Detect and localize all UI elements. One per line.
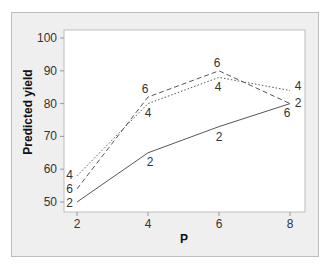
plot-area (64, 30, 305, 212)
point-label-4: 4 (145, 106, 152, 120)
point-label-6: 6 (214, 56, 221, 70)
x-axis-title: P (180, 232, 188, 246)
point-label-2: 2 (147, 155, 154, 169)
x-tick-label: 6 (216, 217, 223, 231)
point-label-6: 6 (284, 106, 291, 120)
y-axis: 50 60 70 80 90 100 Predicted yield (21, 31, 64, 209)
x-axis: 2 4 6 8 P (74, 212, 294, 246)
point-label-6: 6 (142, 82, 149, 96)
point-label-4: 4 (66, 168, 73, 182)
y-tick-label: 80 (44, 97, 58, 111)
point-label-2: 2 (66, 196, 73, 210)
y-tick-label: 90 (44, 64, 58, 78)
y-tick-label: 70 (44, 129, 58, 143)
point-label-2: 2 (216, 130, 223, 144)
y-tick-label: 100 (37, 31, 57, 45)
y-axis-title: Predicted yield (21, 69, 35, 154)
point-label-2: 2 (295, 96, 302, 110)
cropped-caption (0, 262, 328, 267)
line-chart: 50 60 70 80 90 100 Predicted yield 2 4 6… (0, 0, 328, 267)
point-label-6: 6 (66, 182, 73, 196)
x-tick-label: 4 (145, 217, 152, 231)
x-tick-label: 8 (287, 217, 294, 231)
y-tick-label: 60 (44, 162, 58, 176)
point-label-4: 4 (295, 79, 302, 93)
y-tick-label: 50 (44, 195, 58, 209)
x-tick-label: 2 (74, 217, 81, 231)
point-label-4: 4 (215, 80, 222, 94)
